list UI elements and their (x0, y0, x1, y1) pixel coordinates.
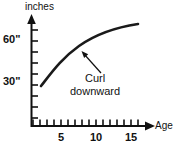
curve-annotation: Curl downward (70, 72, 120, 98)
curve-annotation-line-2: downward (70, 85, 120, 98)
x-axis (32, 122, 156, 131)
x-tick-label-15: 15 (125, 132, 137, 143)
annotation-arrow (82, 51, 102, 73)
y-tick-label-60: 60" (3, 34, 20, 45)
curve-annotation-line-1: Curl (70, 72, 120, 85)
chart-figure: inches Age 60" 30" 5 10 15 Curl downward (0, 0, 174, 152)
x-axis-title: Age (155, 121, 173, 131)
y-tick-label-30: 30" (3, 76, 20, 87)
x-tick-label-5: 5 (58, 132, 64, 143)
y-axis (27, 14, 36, 127)
x-tick-label-10: 10 (90, 132, 102, 143)
y-axis-title: inches (25, 2, 54, 12)
